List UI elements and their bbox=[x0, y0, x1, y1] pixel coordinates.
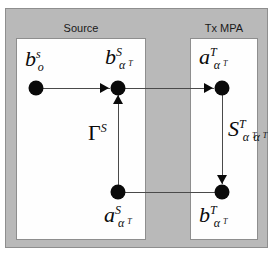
label-subscript-index: T bbox=[128, 59, 132, 68]
panel-caption-source: Source bbox=[16, 22, 146, 34]
label-base: b bbox=[199, 202, 210, 227]
label-subscript-2-index: T bbox=[263, 131, 267, 140]
label-subscript: α bbox=[118, 216, 124, 230]
node-a-alpha-tx[interactable] bbox=[215, 81, 230, 96]
label-base: a bbox=[199, 44, 210, 69]
label-superscript: S bbox=[116, 45, 122, 59]
label-subscript-index: T bbox=[223, 217, 227, 226]
label-node-b-alpha-tx: bTαT bbox=[199, 204, 227, 226]
edge-a-source-to-b-source bbox=[118, 95, 119, 192]
label-subscript: α bbox=[119, 58, 125, 72]
arrowhead-into-b-source-horizontal bbox=[100, 83, 109, 93]
node-b-alpha-tx[interactable] bbox=[215, 185, 230, 200]
label-subscript: α bbox=[214, 58, 220, 72]
label-superscript: S bbox=[115, 203, 121, 217]
label-edge-s-parameter-tx: STαTαT bbox=[228, 118, 267, 140]
label-node-a-alpha-source: aSαT bbox=[104, 204, 132, 226]
panel-caption-tx-mpa: Tx MPA bbox=[190, 22, 258, 34]
label-superscript: T bbox=[239, 117, 246, 131]
label-superscript: T bbox=[210, 45, 217, 59]
label-edge-gamma-source: ΓS bbox=[88, 122, 107, 144]
label-superscript: S bbox=[101, 121, 107, 135]
edge-a-tx-to-b-tx bbox=[222, 88, 223, 184]
label-node-b-alpha-source: bSαT bbox=[105, 46, 133, 68]
label-subscript: α bbox=[214, 216, 220, 230]
label-node-b-o-source: bso bbox=[25, 48, 47, 70]
label-subscript: o bbox=[38, 60, 44, 74]
label-subscript-1: α bbox=[243, 130, 249, 144]
node-b-alpha-source[interactable] bbox=[111, 81, 126, 96]
label-base: S bbox=[228, 116, 239, 141]
label-base: b bbox=[25, 46, 36, 71]
label-superscript: s bbox=[36, 47, 41, 61]
node-b-o-source[interactable] bbox=[29, 81, 44, 96]
label-node-a-alpha-tx: aTαT bbox=[199, 46, 227, 68]
label-base: Γ bbox=[88, 120, 101, 145]
edge-b-source-to-a-tx bbox=[118, 88, 214, 89]
arrowhead-into-a-tx bbox=[204, 83, 213, 93]
edge-bo-to-b-source bbox=[36, 88, 110, 89]
diagram-canvas: Source Tx MPA bso bSαT aSαT aTαT bTαT bbox=[0, 0, 279, 267]
label-subscript-index: T bbox=[127, 217, 131, 226]
label-subscript-2: α bbox=[253, 130, 259, 144]
edge-b-tx-to-a-source bbox=[118, 192, 222, 193]
label-subscript-index: T bbox=[223, 59, 227, 68]
arrowhead-into-b-tx bbox=[217, 175, 227, 184]
label-base: b bbox=[105, 44, 116, 69]
arrowhead-into-b-source-vertical bbox=[113, 95, 123, 104]
label-base: a bbox=[104, 202, 115, 227]
label-superscript: T bbox=[210, 203, 217, 217]
node-a-alpha-source[interactable] bbox=[111, 185, 126, 200]
